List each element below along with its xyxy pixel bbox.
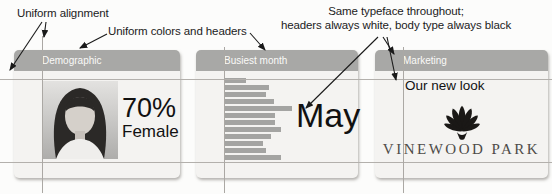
month-bar — [224, 85, 269, 90]
card-header-busiest-month: Busiest month — [196, 50, 358, 71]
arrow-to-busiest-header — [250, 33, 265, 50]
annotation-uniform-alignment: Uniform alignment — [17, 7, 109, 19]
month-bar — [224, 120, 275, 125]
annotation-typeface-line2: headers always white, body type always b… — [268, 18, 524, 32]
figure-canvas: Demographic 70% Female Busiest mo — [0, 0, 552, 194]
horizontal-guide-line-top — [0, 79, 552, 80]
month-bar — [224, 113, 275, 118]
stat-block: 70% Female — [122, 94, 179, 142]
month-bar — [224, 148, 266, 153]
month-bar — [224, 92, 266, 97]
vertical-guide-line-card3 — [403, 47, 404, 193]
month-bar-chart — [224, 78, 292, 162]
month-bar — [224, 155, 281, 160]
arrow-to-demographic-header — [80, 34, 107, 48]
tagline-text: Our new look — [405, 78, 485, 93]
month-bar — [224, 127, 281, 132]
card-header-marketing: Marketing — [375, 50, 548, 71]
month-bar — [224, 99, 274, 104]
card-demographic: Demographic 70% Female — [14, 50, 180, 178]
month-bar — [224, 106, 292, 111]
stat-label: Female — [122, 122, 179, 142]
month-bar — [224, 141, 263, 146]
annotation-uniform-colors-headers: Uniform colors and headers — [108, 25, 247, 37]
brand-name: VINEWOOD PARK — [375, 141, 548, 158]
month-bar — [224, 134, 271, 139]
annotation-same-typeface: Same typeface throughout; headers always… — [268, 4, 524, 32]
vertical-guide-line-card1 — [42, 36, 43, 193]
horizontal-guide-line-bottom — [0, 162, 552, 163]
highlight-month-label: May — [296, 96, 360, 135]
card-busiest-month: Busiest month May — [196, 50, 358, 178]
stat-value: 70% — [122, 94, 179, 122]
vertical-guide-line-card2 — [224, 47, 225, 193]
annotation-typeface-line1: Same typeface throughout; — [268, 4, 524, 18]
scallop-shell-logo-icon — [375, 95, 548, 145]
woman-portrait-photo — [42, 81, 118, 159]
card-header-demographic: Demographic — [14, 50, 180, 71]
card-marketing: Marketing Our new look VIN — [375, 50, 548, 178]
arrow-to-vertical-guide — [44, 22, 46, 37]
